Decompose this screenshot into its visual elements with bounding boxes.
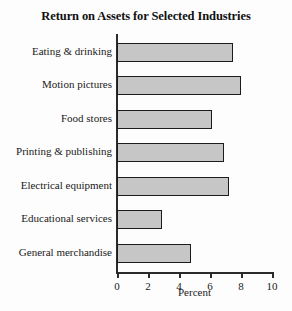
bar-row [117, 103, 272, 136]
category-axis-line [116, 272, 273, 274]
bar-chart-figure: Return on Assets for Selected Industries… [0, 0, 292, 311]
bar [117, 177, 229, 196]
bar-row [117, 203, 272, 236]
bar-row [117, 69, 272, 102]
bar [117, 110, 212, 129]
category-label: Educational services [2, 212, 112, 224]
category-label: Food stores [2, 112, 112, 124]
x-axis-tick [117, 272, 119, 278]
x-axis-tick [241, 272, 243, 278]
x-axis-tick [148, 272, 150, 278]
category-label: Eating & drinking [2, 45, 112, 57]
x-axis-title: Percent [117, 286, 272, 298]
bar-row [117, 136, 272, 169]
bar [117, 210, 162, 229]
plot-area: 0246810 [117, 36, 272, 270]
category-label: Motion pictures [2, 78, 112, 90]
category-axis-labels: Eating & drinkingMotion picturesFood sto… [0, 36, 112, 270]
chart-title: Return on Assets for Selected Industries [0, 9, 292, 24]
bar [117, 143, 224, 162]
category-label: General merchandise [2, 246, 112, 258]
bar-row [117, 170, 272, 203]
category-label: Printing & publishing [2, 145, 112, 157]
bar [117, 244, 191, 263]
bar [117, 43, 233, 62]
x-axis-tick [272, 272, 274, 278]
x-axis-tick [179, 272, 181, 278]
bar-row [117, 237, 272, 270]
bar-row [117, 36, 272, 69]
x-axis-tick [210, 272, 212, 278]
category-label: Electrical equipment [2, 179, 112, 191]
bar [117, 76, 241, 95]
